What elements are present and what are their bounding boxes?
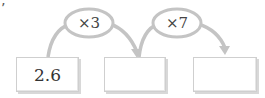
operation-label-2: ×7	[153, 9, 201, 37]
answer-box-1[interactable]	[104, 57, 166, 92]
arrowhead-2-icon	[219, 46, 230, 55]
answer-box-2[interactable]	[193, 57, 257, 92]
arc-2-down	[198, 24, 225, 48]
value-box-start: 2.6	[16, 57, 79, 92]
operation-label-1: ×3	[65, 9, 113, 37]
arc-1-down	[110, 24, 137, 52]
